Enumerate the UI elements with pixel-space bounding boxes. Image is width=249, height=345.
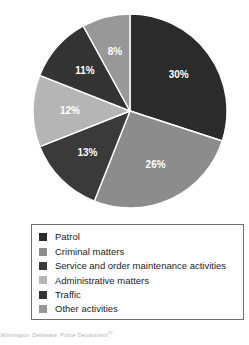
legend-swatch-icon bbox=[39, 305, 47, 313]
legend-item-label: Patrol bbox=[55, 232, 80, 242]
legend-swatch-icon bbox=[39, 233, 47, 241]
legend-item-label: Traffic bbox=[55, 290, 81, 300]
legend-item: Other activities bbox=[39, 302, 243, 316]
pie-chart: 30%26%13%12%11%8% bbox=[31, 12, 229, 210]
source-note-marker: 13 bbox=[108, 330, 113, 335]
legend-item: Administrative matters bbox=[39, 273, 243, 287]
legend-rows: PatrolCriminal mattersService and order … bbox=[39, 230, 243, 316]
legend-item: Service and order maintenance activities bbox=[39, 259, 243, 273]
legend-item: Traffic bbox=[39, 288, 243, 302]
pie-slice-label: 30% bbox=[169, 69, 189, 80]
pie-slice-label: 26% bbox=[146, 159, 166, 170]
legend-swatch-icon bbox=[39, 276, 47, 284]
pie-chart-figure: 30%26%13%12%11%8% PatrolCriminal matters… bbox=[0, 0, 249, 345]
pie-slice-label: 12% bbox=[60, 105, 80, 116]
source-note: e: Wilmington, Delaware, Police Departme… bbox=[0, 330, 249, 338]
source-note-text: e: Wilmington, Delaware, Police Departme… bbox=[0, 332, 108, 338]
pie-slice-label: 8% bbox=[108, 46, 123, 57]
legend-item-label: Other activities bbox=[55, 304, 118, 314]
legend-item: Patrol bbox=[39, 230, 243, 244]
legend-item-label: Administrative matters bbox=[55, 276, 149, 286]
legend-swatch-icon bbox=[39, 248, 47, 256]
pie-slice-label: 13% bbox=[77, 147, 97, 158]
legend-item-label: Service and order maintenance activities bbox=[55, 261, 226, 271]
legend-swatch-icon bbox=[39, 262, 47, 270]
pie-chart-svg: 30%26%13%12%11%8% bbox=[31, 12, 229, 210]
legend-item: Criminal matters bbox=[39, 244, 243, 258]
legend-item-label: Criminal matters bbox=[55, 247, 124, 257]
pie-slice-label: 11% bbox=[75, 65, 95, 76]
legend-box: PatrolCriminal mattersService and order … bbox=[31, 224, 244, 320]
legend-swatch-icon bbox=[39, 291, 47, 299]
